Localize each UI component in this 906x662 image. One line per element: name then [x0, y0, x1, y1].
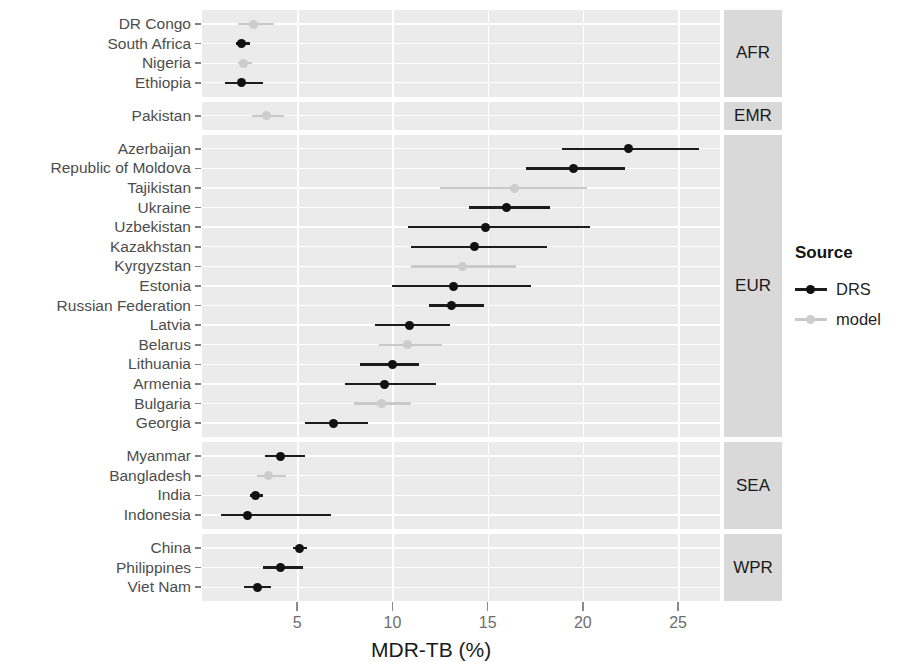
- legend-key-model: [795, 306, 827, 332]
- y-axis-tick: [195, 475, 201, 477]
- ci-bar: [392, 285, 531, 288]
- legend: Source DRS model: [795, 243, 881, 334]
- y-axis-label-indonesia: Indonesia: [124, 507, 191, 523]
- y-axis-tick: [195, 43, 201, 45]
- legend-label-model: model: [836, 310, 881, 329]
- y-axis-label-latvia: Latvia: [150, 317, 191, 333]
- gridline-y: [202, 168, 720, 169]
- data-point[interactable]: [569, 164, 578, 173]
- x-axis-tick-20: [582, 602, 584, 611]
- x-axis-ticklabel-25: 25: [658, 614, 698, 632]
- y-axis-tick: [195, 226, 201, 228]
- data-point[interactable]: [377, 399, 386, 408]
- y-axis-tick: [195, 62, 201, 64]
- y-axis-tick: [195, 455, 201, 457]
- y-axis-label-russian-federation: Russian Federation: [57, 298, 191, 314]
- y-axis-label-kyrgyzstan: Kyrgyzstan: [114, 258, 191, 274]
- y-axis-tick: [195, 115, 201, 117]
- gridline-y: [202, 422, 720, 423]
- x-axis-ticklabel-20: 20: [563, 614, 603, 632]
- y-axis-tick: [195, 266, 201, 268]
- y-axis-label-china: China: [151, 540, 192, 556]
- x-axis-tick-5: [296, 602, 298, 611]
- y-axis-tick: [195, 187, 201, 189]
- y-axis-tick: [195, 403, 201, 405]
- ci-bar: [429, 304, 484, 307]
- legend-item-drs[interactable]: DRS: [795, 274, 881, 304]
- gridline-y: [202, 43, 720, 44]
- data-point[interactable]: [276, 563, 285, 572]
- gridline-y: [202, 23, 720, 24]
- gridline-y: [202, 364, 720, 365]
- y-axis-label-bangladesh: Bangladesh: [109, 468, 191, 484]
- legend-key-drs: [795, 276, 827, 302]
- legend-label-drs: DRS: [836, 280, 871, 299]
- gridline-y: [202, 207, 720, 208]
- y-axis-label-armenia: Armenia: [133, 376, 191, 392]
- y-axis-tick: [195, 23, 201, 25]
- y-axis-tick: [195, 547, 201, 549]
- y-axis-tick: [195, 285, 201, 287]
- facet-panel-afr: [202, 10, 720, 97]
- gridline-y: [202, 344, 720, 345]
- data-point[interactable]: [276, 452, 285, 461]
- gridline-y: [202, 383, 720, 384]
- y-axis-label-dr-congo: DR Congo: [119, 16, 191, 32]
- y-axis-tick: [195, 246, 201, 248]
- y-axis-label-estonia: Estonia: [139, 278, 191, 294]
- data-point[interactable]: [249, 20, 258, 29]
- legend-item-model[interactable]: model: [795, 304, 881, 334]
- data-point[interactable]: [405, 321, 414, 330]
- x-axis-tick-10: [392, 602, 394, 611]
- gridline-y: [202, 82, 720, 83]
- y-axis-tick: [195, 514, 201, 516]
- y-axis-tick: [195, 305, 201, 307]
- data-point[interactable]: [449, 282, 458, 291]
- y-axis-label-lithuania: Lithuania: [128, 356, 191, 372]
- gridline-y: [202, 63, 720, 64]
- ci-bar: [221, 514, 331, 517]
- y-axis-label-pakistan: Pakistan: [132, 108, 191, 124]
- facet-strip-wpr: WPR: [724, 534, 782, 601]
- facet-strip-afr: AFR: [724, 10, 782, 97]
- gridline-y: [202, 495, 720, 496]
- data-point[interactable]: [329, 419, 338, 428]
- y-axis-label-republic-of-moldova: Republic of Moldova: [51, 160, 191, 176]
- data-point[interactable]: [251, 491, 260, 500]
- y-axis-tick: [195, 207, 201, 209]
- y-axis-label-bulgaria: Bulgaria: [134, 396, 191, 412]
- y-axis-label-nigeria: Nigeria: [142, 55, 191, 71]
- y-axis-label-georgia: Georgia: [136, 415, 191, 431]
- y-axis-tick: [195, 567, 201, 569]
- y-axis-label-tajikistan: Tajikistan: [127, 180, 191, 196]
- y-axis-label-kazakhstan: Kazakhstan: [110, 239, 191, 255]
- data-point[interactable]: [253, 583, 262, 592]
- y-axis-tick: [195, 324, 201, 326]
- data-point[interactable]: [481, 223, 490, 232]
- x-axis-tick-25: [677, 602, 679, 611]
- data-point[interactable]: [447, 301, 456, 310]
- gridline-y: [202, 324, 720, 325]
- data-point[interactable]: [380, 380, 389, 389]
- x-axis-ticklabel-10: 10: [372, 614, 412, 632]
- y-axis-label-azerbaijan: Azerbaijan: [118, 141, 191, 157]
- data-point[interactable]: [510, 184, 519, 193]
- y-axis-label-viet-nam: Viet Nam: [128, 579, 191, 595]
- data-point[interactable]: [388, 360, 397, 369]
- y-axis-tick: [195, 82, 201, 84]
- data-point[interactable]: [295, 544, 304, 553]
- x-axis-ticklabel-5: 5: [277, 614, 317, 632]
- y-axis-tick: [195, 586, 201, 588]
- y-axis-label-belarus: Belarus: [138, 337, 191, 353]
- facet-strip-eur: EUR: [724, 135, 782, 437]
- facet-strip-emr: EMR: [724, 102, 782, 130]
- y-axis-tick: [195, 168, 201, 170]
- data-point[interactable]: [243, 511, 252, 520]
- y-axis-label-ethiopia: Ethiopia: [135, 75, 191, 91]
- gridline-y: [202, 547, 720, 548]
- ci-bar: [408, 226, 591, 229]
- ci-bar: [265, 455, 305, 458]
- x-axis-tick-15: [487, 602, 489, 611]
- ci-bar: [345, 383, 436, 386]
